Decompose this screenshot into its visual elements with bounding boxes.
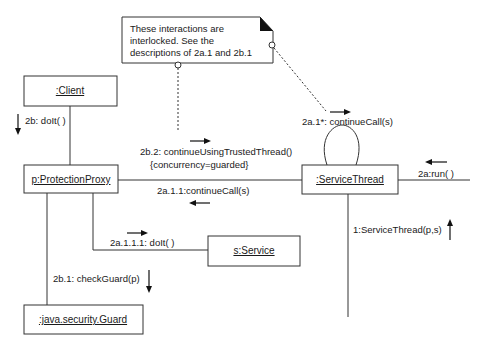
message-label: 2a.1*: continueCall(s) (302, 116, 393, 127)
message-label: 2a.1.1.1: doIt( ) (110, 237, 174, 248)
arrow-head-icon (146, 286, 152, 293)
message-label: 2b: doIt( ) (25, 115, 66, 126)
message-2b-doit: 2b: doIt( ) (15, 114, 66, 135)
arrow-head-icon (189, 200, 196, 206)
message-label: 2a:run( ) (418, 168, 454, 179)
note-anchor-circle (269, 42, 275, 48)
object-proxy-label: p:ProtectionProxy (32, 174, 111, 185)
arrow-head-icon (344, 109, 351, 115)
message-label: 1:ServiceThread(p,s) (353, 224, 442, 235)
object-service-thread[interactable]: :ServiceThread (302, 165, 398, 194)
arrow-head-icon (447, 219, 453, 226)
self-link-servicethread (324, 125, 359, 165)
note-line-1: These interactions are (130, 23, 224, 34)
message-label: 2b.1: checkGuard(p) (53, 273, 140, 284)
message-label: 2b.2: continueUsingTrustedThread() (140, 146, 292, 157)
object-service[interactable]: s:Service (208, 236, 300, 266)
object-service-label: s:Service (233, 245, 275, 256)
object-guard-label: :java.security.Guard (39, 314, 127, 325)
object-guard[interactable]: :java.security.Guard (24, 305, 143, 334)
constraint-label: {concurrency=guarded} (150, 159, 249, 170)
message-2a11-continue-call: 2a.1.1:continueCall(s) (157, 185, 249, 206)
object-servicethread-label: :ServiceThread (316, 174, 384, 185)
object-protection-proxy[interactable]: p:ProtectionProxy (24, 165, 118, 193)
message-2a111-doit: 2a.1.1.1: doIt( ) (110, 230, 174, 248)
object-client-label: :Client (56, 85, 85, 96)
message-label: 2a.1.1:continueCall(s) (157, 185, 249, 196)
message-1-service-thread: 1:ServiceThread(p,s) (353, 219, 453, 240)
arrow-head-icon (141, 230, 148, 236)
message-2a1-continue-call: 2a.1*: continueCall(s) (302, 109, 393, 127)
note-anchor-circle (175, 62, 181, 68)
message-2a-run: 2a:run( ) (418, 159, 454, 179)
message-2b1-check-guard: 2b.1: checkGuard(p) (53, 270, 152, 293)
note-connector-2a1 (274, 48, 326, 111)
arrow-head-icon (425, 159, 432, 165)
note-line-3: descriptions of 2a.1 and 2b.1 (130, 47, 252, 58)
object-client[interactable]: :Client (24, 76, 117, 106)
arrow-head-icon (15, 128, 21, 135)
collaboration-diagram: These interactions are interlocked. See … (0, 0, 492, 348)
note-line-2: interlocked. See the (130, 35, 214, 46)
message-2b2-continue-trusted: 2b.2: continueUsingTrustedThread() {conc… (140, 138, 292, 170)
note: These interactions are interlocked. See … (122, 17, 273, 63)
arrow-head-icon (204, 138, 211, 144)
